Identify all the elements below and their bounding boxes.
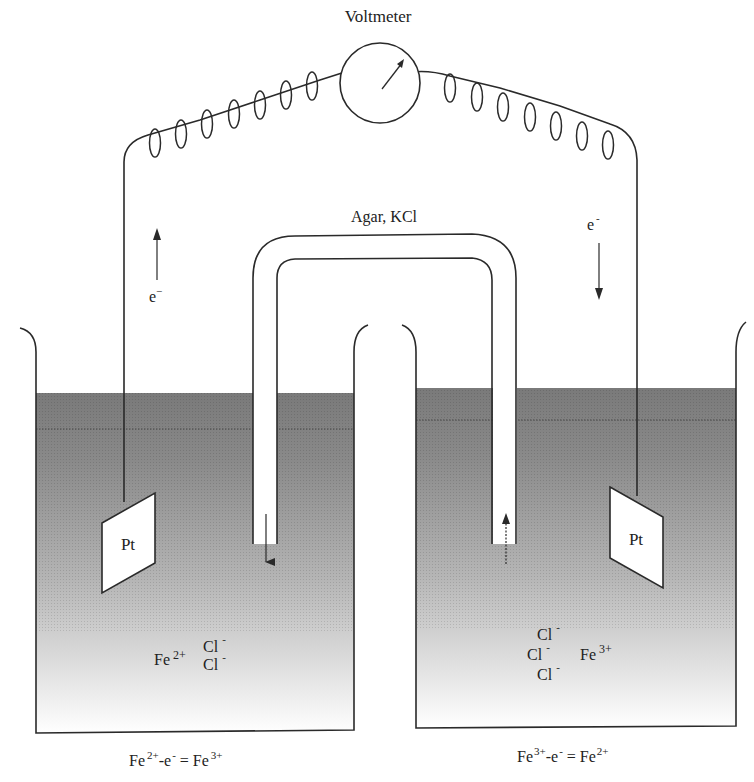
right-electron-arrow: [595, 243, 603, 300]
left-electrode-label: Pt: [121, 535, 135, 554]
right-half-reaction: Fe3+-e- = Fe2+: [517, 745, 609, 765]
left-beaker: [20, 325, 368, 733]
right-beaker: [402, 322, 746, 728]
voltmeter-title: Voltmeter: [345, 7, 412, 26]
left-coil: [150, 72, 318, 157]
voltmeter-dial: [340, 43, 420, 123]
left-half-reaction: Fe2+-e- = Fe3+: [129, 749, 223, 769]
left-electron-arrow: [153, 228, 161, 280]
salt-bridge-label: Agar, KCl: [351, 208, 418, 226]
right-electrode-label: Pt: [629, 530, 643, 549]
left-electron-label: e−: [149, 285, 162, 305]
voltmeter: [340, 43, 420, 123]
galvanic-cell-diagram: Voltmeter Agar, KCl: [0, 0, 754, 782]
right-electron-label: e-: [587, 212, 600, 233]
